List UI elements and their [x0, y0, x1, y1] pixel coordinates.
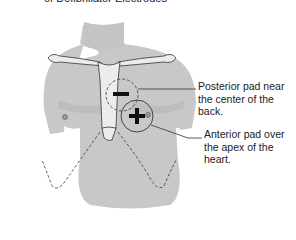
plus-sign-v	[135, 108, 139, 124]
anterior-pad-label: Anterior pad over the apex of the heart.	[204, 128, 296, 166]
negative-sign-icon	[113, 92, 129, 96]
torso-shape	[64, 25, 192, 209]
nipple-right	[146, 113, 151, 118]
nipple-left	[63, 115, 68, 120]
posterior-pad-label: Posterior pad near the center of the bac…	[198, 80, 296, 118]
neck-shape	[84, 22, 124, 50]
